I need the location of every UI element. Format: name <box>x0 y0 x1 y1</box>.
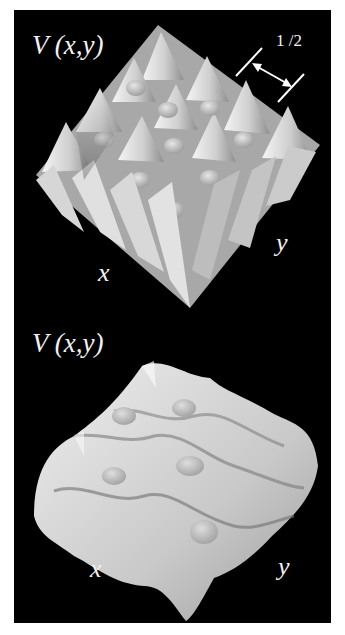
panel-bottom-title: V (x,y) <box>32 330 103 357</box>
scale-annotation: 1 /2 <box>276 32 302 49</box>
panel-top-y-axis-label: y <box>276 230 288 256</box>
panel-top-title: V (x,y) <box>32 32 103 59</box>
panel-bottom: V (x,y) x y <box>14 316 331 623</box>
panel-top: V (x,y) x y 1 /2 <box>14 10 331 316</box>
panel-bottom-y-axis-label: y <box>278 554 290 580</box>
panel-bottom-x-axis-label: x <box>90 556 102 582</box>
panel-top-x-axis-label: x <box>98 260 110 286</box>
figure: V (x,y) x y 1 /2 <box>14 10 331 623</box>
